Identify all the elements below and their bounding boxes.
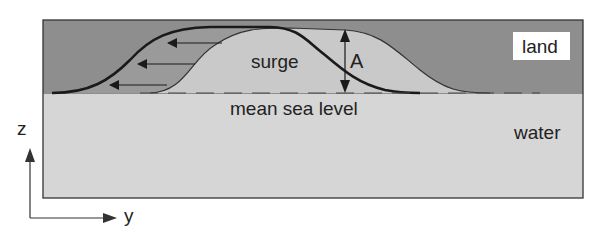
y-axis-label: y (124, 205, 134, 226)
mean-sea-level-label: mean sea level (230, 98, 358, 119)
storm-surge-diagram: A surge mean sea level land water z y (0, 0, 609, 239)
z-axis-label: z (17, 118, 27, 139)
z-axis-arrow-icon (25, 148, 35, 162)
amplitude-label: A (350, 50, 364, 72)
y-axis-arrow-icon (103, 213, 117, 223)
water-label: water (513, 122, 561, 143)
land-label: land (522, 36, 558, 57)
surge-label: surge (251, 51, 299, 72)
